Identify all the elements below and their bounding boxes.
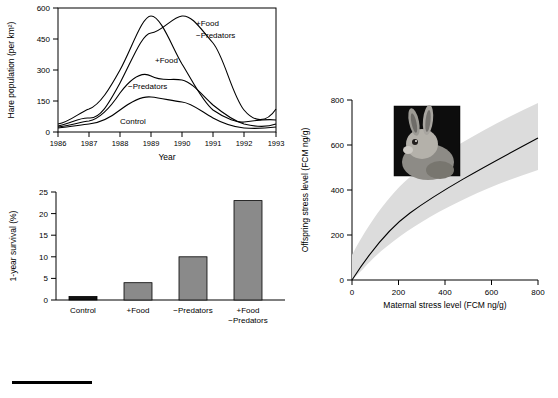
panel-hare-population: 0 150 300 450 600 1986 1987 1988 1989 19… xyxy=(0,0,300,175)
bar-label-food-predators-line1: +Food xyxy=(237,306,260,315)
x-tick-a-1990: 1990 xyxy=(174,139,191,148)
bar-label-control: Control xyxy=(70,306,96,315)
panel-stress: 0 200 400 600 800 0 200 400 600 800 Mate… xyxy=(290,92,558,312)
footer-rule xyxy=(12,381,92,384)
y-tick-c-600: 600 xyxy=(331,141,345,150)
x-tick-c-800: 800 xyxy=(531,288,545,297)
y-tick-a-450: 450 xyxy=(37,35,51,44)
bar-label-food-predators-line2: −Predators xyxy=(228,316,267,325)
y-axis-ticks-a xyxy=(53,8,58,132)
y-tick-a-0: 0 xyxy=(46,128,51,137)
y-tick-b-15: 15 xyxy=(39,231,48,240)
x-tick-c-200: 200 xyxy=(392,288,406,297)
y-axis-label-c: Offspring stress level (FCM ng/g) xyxy=(300,128,310,253)
x-tick-a-1986: 1986 xyxy=(50,139,67,148)
y-tick-a-300: 300 xyxy=(37,66,51,75)
annotation-food-top: +Food xyxy=(196,19,219,28)
y-tick-c-200: 200 xyxy=(331,231,345,240)
y-tick-a-600: 600 xyxy=(37,4,51,13)
x-tick-c-400: 400 xyxy=(438,288,452,297)
hare-population-chart: 0 150 300 450 600 1986 1987 1988 1989 19… xyxy=(0,0,300,175)
panel-survival: 0 5 10 15 20 25 1-year survival (%) Cont… xyxy=(0,182,300,382)
y-tick-b-20: 20 xyxy=(39,210,48,219)
annotation-predators: −Predators xyxy=(128,82,167,91)
y-axis-ticks-b xyxy=(51,192,56,300)
annotation-food: +Food xyxy=(155,56,178,65)
y-tick-c-400: 400 xyxy=(331,186,345,195)
y-tick-c-800: 800 xyxy=(331,96,345,105)
x-axis-label-a: Year xyxy=(158,152,175,162)
x-tick-a-1993: 1993 xyxy=(268,139,285,148)
x-tick-a-1992: 1992 xyxy=(236,139,253,148)
annotation-control: Control xyxy=(120,117,146,126)
y-tick-b-0: 0 xyxy=(44,296,49,305)
x-tick-c-0: 0 xyxy=(350,288,355,297)
bar-label-predators: −Predators xyxy=(173,306,212,315)
x-axis-ticks-c xyxy=(352,280,538,285)
bar-food xyxy=(124,283,152,300)
survival-chart: 0 5 10 15 20 25 1-year survival (%) Cont… xyxy=(0,182,300,382)
y-axis-ticks-c xyxy=(347,100,352,280)
bar-predators xyxy=(179,257,207,300)
y-tick-a-150: 150 xyxy=(37,97,51,106)
hare-photo xyxy=(394,105,460,180)
series-food xyxy=(58,16,276,124)
x-axis-ticks-a xyxy=(58,132,276,137)
y-axis-label-b: 1-year survival (%) xyxy=(8,210,18,281)
y-tick-c-0: 0 xyxy=(340,276,345,285)
bar-control xyxy=(69,297,97,301)
annotation-predators-top: −Predators xyxy=(196,31,235,40)
series-food-predators xyxy=(58,16,276,126)
bar-label-food: +Food xyxy=(127,306,150,315)
x-tick-a-1991: 1991 xyxy=(205,139,222,148)
bar-food-predators xyxy=(234,201,262,300)
x-tick-c-600: 600 xyxy=(485,288,499,297)
y-axis-label-a: Hare population (per km²) xyxy=(6,21,16,118)
y-tick-b-10: 10 xyxy=(39,253,48,262)
x-tick-a-1989: 1989 xyxy=(143,139,160,148)
y-tick-b-25: 25 xyxy=(39,188,48,197)
x-tick-a-1988: 1988 xyxy=(112,139,129,148)
y-tick-b-5: 5 xyxy=(44,274,49,283)
stress-chart: 0 200 400 600 800 0 200 400 600 800 Mate… xyxy=(290,92,558,312)
x-axis-label-c: Maternal stress level (FCM ng/g) xyxy=(383,300,506,310)
x-tick-a-1987: 1987 xyxy=(81,139,98,148)
